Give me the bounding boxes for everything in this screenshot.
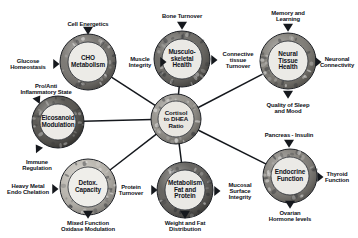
ring-inner bbox=[158, 101, 194, 137]
connector-hub-to-endocrine-function bbox=[197, 130, 266, 165]
ring-inner bbox=[268, 41, 308, 81]
arrow-connective-tissue-turnover bbox=[211, 55, 217, 65]
node-cho-metabolism[interactable] bbox=[60, 34, 117, 90]
arrow-ovarian-hormone-levels bbox=[285, 201, 295, 209]
arrow-pancreas-insulin bbox=[284, 140, 294, 148]
connector-hub-to-cho-metabolism bbox=[111, 77, 156, 106]
arrow-neuronal-connectivity bbox=[315, 57, 321, 67]
node-rings bbox=[31, 31, 318, 219]
arrow-cell-energetics bbox=[83, 27, 93, 35]
arrow-memory-and-learning bbox=[283, 24, 293, 32]
connector-hub-to-eicosanoid-modulation bbox=[83, 120, 152, 122]
node-metabolism-fat-and-protein[interactable] bbox=[157, 162, 213, 218]
arrow-thyroid-function bbox=[317, 172, 323, 182]
ring-inner bbox=[162, 39, 202, 79]
node-neural-tissue-health[interactable] bbox=[260, 33, 316, 89]
arrow-protein-turnover bbox=[151, 185, 157, 195]
arrow-pro-anti-inflammatory-state bbox=[33, 96, 41, 105]
arrow-glucose-homeostasis bbox=[53, 59, 59, 69]
arrow-bone-turnover bbox=[177, 22, 187, 30]
node-cortisol-dhea-ratio[interactable] bbox=[151, 94, 201, 144]
systems-map-svg bbox=[0, 0, 358, 238]
ring-inner bbox=[165, 170, 205, 210]
arrow-immune-regulation bbox=[36, 145, 43, 154]
diagram-canvas: CHO MetabolismCell EnergeticsGlucose Hom… bbox=[0, 0, 358, 238]
arrow-quality-of-sleep-and-mood bbox=[283, 91, 293, 99]
connector-hub-to-neural-tissue-health bbox=[197, 73, 264, 108]
node-detox-capacity[interactable] bbox=[60, 159, 116, 215]
ring-inner bbox=[40, 104, 76, 140]
node-endocrine-function[interactable] bbox=[262, 149, 318, 203]
ring-inner bbox=[68, 42, 108, 82]
ring-inner bbox=[271, 157, 309, 195]
connector-hub-to-metabolism-fat-and-protein bbox=[179, 143, 182, 163]
arrow-mucosal-surface-integrity bbox=[214, 186, 220, 196]
connector-hub-to-detox-capacity bbox=[109, 134, 157, 171]
arrow-heavy-metal-endo-chelation bbox=[52, 184, 58, 194]
ring-inner bbox=[68, 167, 108, 207]
